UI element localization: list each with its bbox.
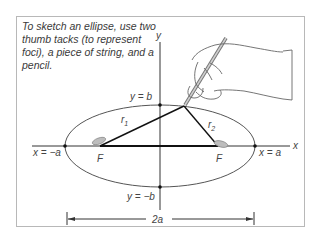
hand-with-pencil-icon [185,38,292,105]
y-axis-label: y [155,30,162,41]
r2-label: r2 [208,119,215,132]
top-vertex-label: y = b [129,91,152,102]
bottom-vertex-label: y = −b [126,191,155,202]
arrowhead-left-icon [68,217,75,221]
left-vertex-dot [63,144,67,148]
right-vertex-dot [253,144,257,148]
major-axis-label: 2a [151,214,164,225]
focus-right-label: F [216,153,223,164]
arrowhead-right-icon [246,217,253,221]
r1-line [100,106,184,146]
r1-label: r1 [121,114,128,127]
thumb-tack-right-icon [213,139,228,148]
left-vertex-label: x = −a [32,147,61,158]
focus-left-label: F [97,153,104,164]
right-vertex-label: x = a [258,147,281,158]
bottom-vertex-dot [158,185,162,189]
x-axis-label: x [292,140,299,151]
ellipse-diagram: y x y = b y = −b x = −a x = a F F r1 r2 … [0,0,322,242]
top-vertex-dot [158,103,162,107]
